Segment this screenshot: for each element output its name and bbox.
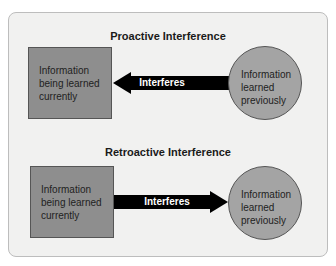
proactive-title: Proactive Interference	[0, 30, 336, 42]
arrow-label: Interferes	[124, 195, 210, 209]
retroactive-title: Retroactive Interference	[0, 146, 336, 158]
box-line: Information	[41, 183, 113, 196]
circle-line: learned	[241, 81, 301, 94]
box-line: being learned	[41, 196, 113, 209]
box-line: Information	[39, 64, 111, 77]
circle-line: Information	[241, 68, 301, 81]
interferes-arrow: Interferes	[130, 76, 230, 90]
previous-info-circle: Information learned previously	[228, 166, 302, 240]
box-line: being learned	[39, 77, 111, 90]
arrow-label: Interferes	[130, 76, 194, 90]
current-info-box: Information being learned currently	[28, 47, 112, 119]
previous-info-circle: Information learned previously	[228, 46, 302, 120]
current-info-box: Information being learned currently	[30, 166, 114, 238]
circle-line: learned	[241, 201, 301, 214]
interferes-arrow: Interferes	[114, 195, 210, 209]
box-line: currently	[41, 209, 113, 222]
box-line: currently	[39, 90, 111, 103]
circle-line: Information	[241, 188, 301, 201]
arrow-head-left-icon	[113, 72, 131, 94]
circle-line: previously	[241, 214, 301, 227]
circle-line: previously	[241, 94, 301, 107]
arrow-head-right-icon	[210, 191, 228, 213]
